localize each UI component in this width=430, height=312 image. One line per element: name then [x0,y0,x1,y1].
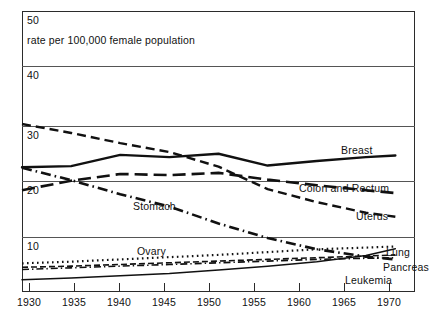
series-label-colon-and-rectum: Colon and Rectum [299,182,389,194]
series-line-breast [22,154,395,167]
series-label-leukemia: Leukemia [345,274,392,286]
series-label-pancreas: Pancreas [383,261,429,273]
series-label-lung: Lung [386,246,410,258]
series-line-leukemia [22,258,395,270]
cancer-mortality-line-chart: 50 40 30 20 10 rate per 100,000 female p… [0,0,430,312]
series-label-ovary: Ovary [137,245,166,257]
series-label-uterus: Uterus [356,210,388,222]
series-label-stomach: Stomach [133,200,176,212]
series-line-uterus [22,124,395,217]
series-label-breast: Breast [341,144,373,156]
series-line-ovary [22,246,395,263]
series-layer [0,0,430,312]
